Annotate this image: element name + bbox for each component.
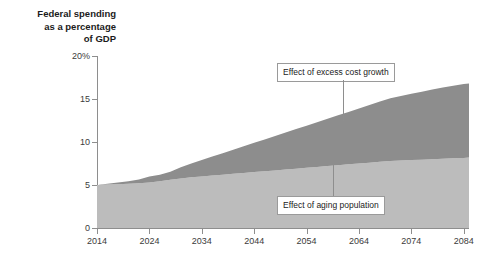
y-tick [92, 185, 97, 186]
y-tick [92, 99, 97, 100]
chart-title-line-2: as a percentage [8, 21, 116, 34]
y-tick [92, 142, 97, 143]
chart-title-line-1: Federal spending [8, 8, 116, 21]
x-tick [359, 229, 360, 234]
x-tick-label: 2024 [127, 236, 171, 246]
x-tick [149, 229, 150, 234]
x-tick-label: 2034 [180, 236, 224, 246]
x-tick-label: 2084 [442, 236, 486, 246]
chart-title: Federal spending as a percentage of GDP [8, 8, 116, 46]
x-tick [97, 229, 98, 234]
x-tick [307, 229, 308, 234]
annotation-excess-cost-growth: Effect of excess cost growth [277, 63, 395, 82]
x-tick-label: 2054 [285, 236, 329, 246]
x-tick [411, 229, 412, 234]
y-tick-label: 20% [42, 51, 90, 61]
x-tick-label: 2014 [75, 236, 119, 246]
y-tick-label: 0 [42, 223, 90, 233]
x-tick-label: 2074 [389, 236, 433, 246]
x-tick [254, 229, 255, 234]
y-tick-label: 15 [42, 94, 90, 104]
chart-title-line-3: of GDP [8, 33, 116, 46]
y-tick-label: 10 [42, 137, 90, 147]
chart-figure: Federal spending as a percentage of GDP … [0, 0, 504, 255]
annotation-aging-population: Effect of aging population [277, 196, 385, 215]
x-axis-line [97, 228, 469, 229]
y-tick-label: 5 [42, 180, 90, 190]
x-tick [464, 229, 465, 234]
x-tick-label: 2064 [337, 236, 381, 246]
x-tick-label: 2044 [232, 236, 276, 246]
annotation-leader-aging-population [333, 165, 334, 196]
y-tick [92, 56, 97, 57]
annotation-leader-excess-cost-growth [343, 80, 344, 121]
x-tick [202, 229, 203, 234]
